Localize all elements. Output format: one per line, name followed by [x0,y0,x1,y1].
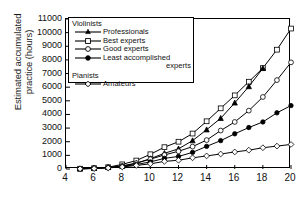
y-tick-label: 11000 [22,13,62,23]
legend-label-least-accomplished: Least accomplished [101,54,170,63]
filled-circle-marker-icon [75,54,101,62]
y-tick-label: 1000 [22,149,62,159]
x-tick-label: 16 [222,172,246,183]
y-tick-label: 8000 [22,54,62,64]
x-tick-label: 10 [137,172,161,183]
chart-figure: Estimated accumulated practice (hours) 0… [0,0,300,220]
y-tick-label: 5000 [22,95,62,105]
legend-label-least-accomplished-cont: experts [71,62,193,71]
x-tick-label: 14 [194,172,218,183]
chart-legend: Violinists Professionals Best experts [68,17,194,83]
x-tick-label: 20 [278,172,300,183]
x-tick-label: 8 [109,172,133,183]
y-tick-label: 3000 [22,122,62,132]
open-circle-marker-icon [75,45,101,53]
y-tick-label: 9000 [22,40,62,50]
x-tick-label: 12 [166,172,190,183]
open-square-marker-icon [75,37,101,45]
filled-triangle-marker-icon [75,28,101,36]
open-diamond-marker-icon [75,80,101,88]
x-tick-label: 4 [53,172,77,183]
x-tick-label: 6 [81,172,105,183]
legend-item-amateurs[interactable]: Amateurs [71,80,193,89]
x-tick-label: 18 [250,172,274,183]
y-tick-label: 7000 [22,68,62,78]
y-tick-label: 4000 [22,108,62,118]
y-tick-label: 6000 [22,81,62,91]
legend-label-amateurs: Amateurs [101,80,136,89]
y-tick-label: 10000 [22,27,62,37]
y-tick-label: 2000 [22,136,62,146]
